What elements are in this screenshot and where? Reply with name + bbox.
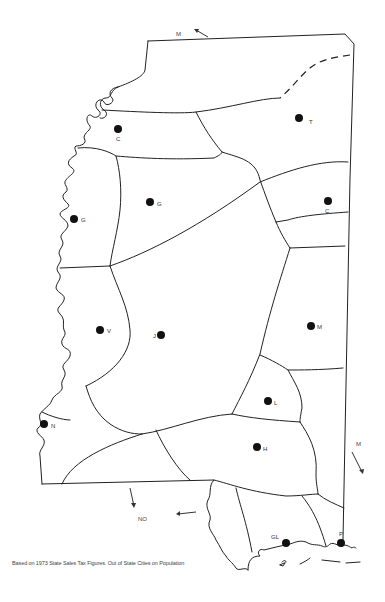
region-border [110, 162, 348, 266]
region-border [232, 248, 290, 414]
city-dot-icon [114, 125, 122, 133]
city-label: J [153, 333, 156, 339]
dashed-waterway [280, 55, 350, 98]
city-marker: C [324, 197, 332, 214]
arrow-to-new-orleans-down [130, 488, 136, 508]
city-label: M [317, 324, 322, 330]
region-border [110, 156, 121, 266]
city-dot-icon [337, 539, 345, 547]
south-border [42, 480, 248, 570]
region-border [196, 112, 276, 222]
external-city-label: NO [138, 516, 147, 522]
city-label: V [107, 328, 111, 334]
river-border [37, 87, 118, 484]
region-border [276, 212, 348, 222]
region-border [86, 266, 130, 386]
region-border [60, 266, 110, 268]
trade-area-map: CTGCGVJMLNHGLP MMNO [0, 0, 385, 602]
city-dot-icon [253, 443, 261, 451]
city-dot-icon [282, 539, 290, 547]
city-label: T [309, 119, 313, 125]
city-marker: GL [271, 534, 290, 547]
region-border [86, 386, 142, 434]
region-border [62, 434, 142, 484]
city-dot-icon [295, 114, 303, 122]
region-border [102, 98, 280, 113]
city-label: C [116, 136, 121, 142]
region-border [236, 488, 252, 552]
city-label: G [157, 201, 162, 207]
city-label: H [263, 446, 267, 452]
city-label: P [339, 531, 343, 537]
city-marker: N [40, 420, 55, 429]
city-marker: G [146, 198, 162, 207]
city-dot-icon [157, 331, 165, 339]
arrow-to-mobile-right [352, 452, 364, 474]
city-markers: CTGCGVJMLNHGLP [40, 114, 345, 547]
city-label: L [274, 400, 278, 406]
city-label: G [81, 217, 86, 223]
region-border [290, 246, 345, 248]
city-dot-icon [70, 215, 78, 223]
city-dot-icon [146, 198, 154, 206]
barrier-islands [280, 558, 360, 566]
region-border [214, 480, 318, 496]
map-caption: Based on 1973 State Sales Tax Figures. O… [12, 560, 184, 566]
city-dot-icon [264, 397, 272, 405]
city-marker: T [295, 114, 313, 125]
region-border [156, 430, 190, 480]
arrow-to-memphis-top [194, 29, 208, 37]
city-dot-icon [40, 420, 48, 428]
city-marker: G [70, 215, 86, 223]
region-border [300, 422, 318, 494]
city-label: C [325, 208, 330, 214]
city-label: GL [271, 534, 280, 540]
external-city-label: M [356, 441, 361, 447]
region-border [288, 370, 302, 422]
region-border [260, 355, 343, 370]
city-dot-icon [324, 197, 332, 205]
region-border [42, 412, 70, 420]
region-border [142, 414, 232, 434]
city-marker: V [96, 326, 111, 334]
city-dot-icon [96, 326, 104, 334]
region-border [302, 496, 326, 546]
city-marker: J [153, 331, 165, 339]
city-label: N [51, 423, 55, 429]
city-marker: P [337, 531, 345, 547]
region-border [232, 414, 300, 422]
arrow-to-new-orleans-left [176, 511, 196, 516]
region-border [276, 222, 290, 248]
city-dot-icon [307, 322, 315, 330]
city-marker: C [114, 125, 122, 142]
region-border [78, 148, 222, 159]
external-city-labels: MMNO [138, 31, 361, 522]
external-city-label: M [176, 31, 181, 37]
region-border [318, 494, 344, 508]
city-marker: H [253, 443, 267, 452]
city-marker: L [264, 397, 278, 406]
city-marker: M [307, 322, 322, 330]
